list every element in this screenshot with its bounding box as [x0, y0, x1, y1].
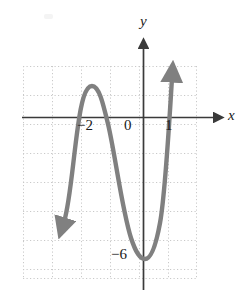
cubic-curve: [64, 78, 172, 259]
y-axis-label: y: [140, 14, 147, 29]
x-tick-label-one: 1: [165, 118, 173, 133]
origin-label-zero: 0: [124, 118, 132, 133]
y-tick-label-negative-six: −6: [111, 247, 127, 262]
graph-figure: y x −2 0 1 −6: [0, 0, 236, 298]
x-tick-label-negative-two: −2: [77, 118, 93, 133]
x-axis-label: x: [228, 108, 235, 123]
